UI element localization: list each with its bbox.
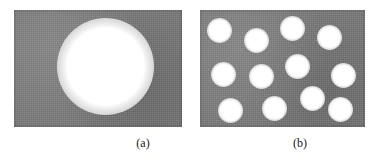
pore: [300, 86, 325, 111]
pore: [57, 18, 154, 115]
pore: [317, 25, 342, 50]
pore: [207, 18, 232, 43]
panel-b: [200, 10, 365, 127]
panel-caption-b: (b): [255, 136, 345, 150]
figure-container: (a)(b): [0, 0, 379, 164]
pore: [280, 16, 305, 41]
panel-a: [14, 10, 182, 127]
pore: [249, 64, 274, 89]
panel-caption-a: (a): [98, 136, 188, 150]
pore: [211, 62, 236, 87]
matrix-region-b: [200, 10, 365, 127]
pore: [244, 28, 269, 53]
pore: [262, 96, 287, 121]
matrix-region-a: [14, 10, 182, 127]
pore: [331, 63, 356, 88]
pore: [285, 54, 310, 79]
pore: [328, 97, 353, 122]
pore: [218, 98, 243, 123]
